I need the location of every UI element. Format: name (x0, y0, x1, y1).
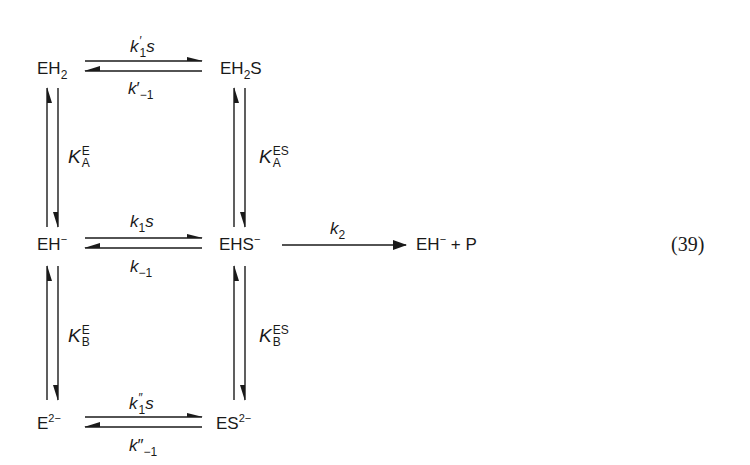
rate-mid-forward: k1s (130, 213, 154, 230)
rate-mid-reverse: k−1 (130, 258, 152, 275)
constant-symbol: K (259, 325, 272, 346)
species-base: E (37, 414, 48, 433)
rate-sub: 1 (139, 221, 146, 235)
species-charge: − (254, 233, 260, 245)
rate-top-reverse: k′−1 (128, 80, 153, 97)
rate-symbol: k (128, 79, 137, 98)
constant-sub: B (273, 336, 289, 348)
species-tail: + P (446, 235, 477, 254)
species-base: EHS (219, 235, 254, 254)
rate-sub: 1 (139, 404, 146, 416)
rate-symbol: k (130, 212, 139, 231)
rate-symbol: k (129, 436, 138, 455)
equation-number: (39) (671, 233, 704, 256)
rate-symbol: k (330, 219, 339, 238)
reaction-arrows (0, 0, 750, 465)
species-base: EH (220, 59, 244, 78)
rate-sub: −1 (139, 266, 153, 280)
rate-symbol: k (130, 257, 139, 276)
species-charge: − (440, 233, 446, 245)
rate-sub: 1 (140, 47, 147, 59)
species-base: ES (216, 414, 239, 433)
rate-symbol: k (129, 394, 138, 413)
rate-symbol: k (130, 37, 139, 56)
species-eh2s: EH2S (220, 60, 262, 77)
rate-sub: 2 (339, 228, 346, 242)
rate-tail: s (145, 212, 154, 231)
species-base: EH (416, 235, 440, 254)
rate-tail: s (145, 394, 154, 413)
species-eh-minus: EH− (37, 236, 67, 253)
species-charge: − (61, 233, 67, 245)
species-product: EH− + P (416, 236, 477, 253)
species-ehs-minus: EHS− (219, 236, 260, 253)
species-base: EH (37, 59, 61, 78)
constant-left-upper: KEA (68, 146, 90, 170)
constant-symbol: K (68, 325, 81, 346)
constant-symbol: K (259, 146, 272, 167)
rate-bot-forward: k″1s (129, 393, 154, 417)
species-sub: 2 (61, 68, 68, 82)
constant-sub: A (82, 157, 90, 169)
rate-top-forward: k′1s (130, 36, 155, 60)
species-base: EH (37, 235, 61, 254)
constant-sub: B (82, 336, 90, 348)
rate-tail: s (146, 37, 155, 56)
species-e-2minus: E2− (37, 415, 61, 432)
constant-sub: A (273, 157, 289, 169)
constant-symbol: K (68, 146, 81, 167)
constant-right-upper: KESA (259, 146, 289, 170)
rate-bot-reverse: k″−1 (129, 437, 157, 454)
rate-catalytic: k2 (330, 220, 345, 237)
species-sub: 2 (244, 68, 251, 82)
species-charge: 2− (48, 412, 61, 424)
rate-prime: ″ (138, 436, 144, 455)
constant-left-lower: KEB (68, 325, 90, 349)
species-charge: 2− (239, 412, 252, 424)
species-eh2: EH2 (37, 60, 67, 77)
constant-right-lower: KESB (259, 325, 289, 349)
species-es-2minus: ES2− (216, 415, 251, 432)
rate-sub: −1 (140, 88, 154, 102)
rate-sub: −1 (144, 445, 158, 459)
species-tail: S (250, 59, 261, 78)
